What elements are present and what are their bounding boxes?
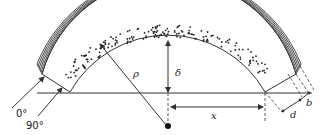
radius-label: ρ xyxy=(132,68,139,79)
core-region xyxy=(42,0,296,92)
angle-90-label: 90° xyxy=(26,120,44,131)
core-particles xyxy=(65,25,268,79)
b-label: b xyxy=(306,97,312,108)
ply-orientation-90-arrow xyxy=(38,88,62,116)
diagram-canvas: ρ δ x d b 0° 90° xyxy=(0,0,327,135)
radius-arrow xyxy=(100,44,166,125)
angle-0-label: 0° xyxy=(16,108,27,119)
x-label: x xyxy=(211,110,217,121)
depth-label: δ xyxy=(175,67,181,78)
d-label: d xyxy=(290,109,296,120)
